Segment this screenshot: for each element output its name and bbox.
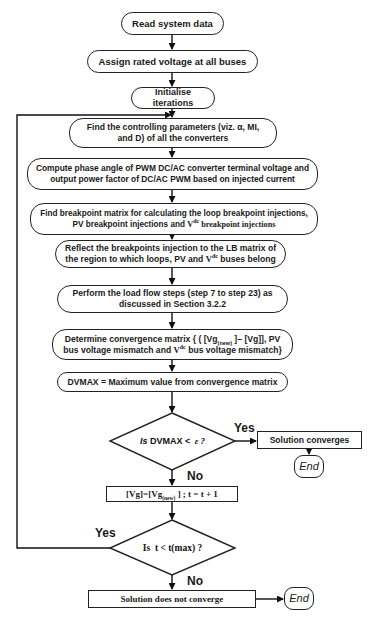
node-label-line2: the region to which loops, PV and Vdc bu… [65, 254, 275, 265]
compute-phase-angle-node: Compute phase angle of PWM DC/AC convert… [27, 158, 318, 190]
node-label-line2: and D) of all the converters [118, 133, 229, 144]
text-part: Is [140, 436, 148, 446]
assign-voltage-node: Assign rated voltage at all buses [87, 50, 258, 73]
node-label: Assign rated voltage at all buses [99, 56, 247, 67]
node-label: Initialise iterations [134, 87, 212, 109]
text-part: ] ; t = t + 1 [175, 489, 218, 499]
text-part: buses belong [218, 254, 276, 264]
initialise-iterations-node: Initialise iterations [131, 87, 215, 109]
node-label-line1: Compute phase angle of PWM DC/AC convert… [36, 163, 309, 174]
node-label-line2: PV breakpoint injections and Vdc breakpo… [73, 219, 276, 230]
node-label: DVMAX = Maximum value from convergence m… [68, 377, 278, 388]
text-part: breakpoint injections [199, 220, 275, 229]
text-part: [Vg]=[Vg [126, 489, 162, 499]
text-part: ]– [Vg]], PV [232, 334, 280, 344]
perform-load-flow-node: Perform the load flow steps (step 7 to s… [57, 285, 288, 313]
find-breakpoint-matrix-node: Find breakpoint matrix for calculating t… [30, 203, 318, 235]
solution-not-converge-node: Solution does not converge [88, 590, 256, 608]
node-label: End [289, 593, 309, 604]
find-controlling-parameters-node: Find the controlling parameters (viz. α,… [69, 118, 277, 148]
dvmax-node: DVMAX = Maximum value from convergence m… [57, 372, 288, 392]
node-label-line2: output power factor of DC/AC PWM based o… [50, 174, 295, 185]
text-part: PV breakpoint injections and [73, 220, 188, 229]
epsilon-symbol: ε ? [195, 436, 205, 446]
update-voltage-node: [Vg]=[Vg(new) ] ; t = t + 1 [106, 486, 238, 502]
text-part: bus voltage mismatch} [186, 345, 282, 355]
node-label-line1: Find breakpoint matrix for calculating t… [40, 208, 308, 219]
node-label-line1: Determine convergence matrix { ( [Vg(new… [65, 334, 280, 345]
end-node-2: End [284, 587, 314, 610]
node-label: Solution converges [270, 435, 350, 446]
text-part: DVMAX < [147, 436, 192, 446]
decision-2-yes-label: Yes [95, 526, 116, 540]
determine-convergence-node: Determine convergence matrix { ( [Vg(new… [52, 329, 293, 360]
decision-2-no-label: No [187, 574, 203, 588]
node-label: End [299, 461, 319, 472]
node-label: Solution does not converge [121, 594, 224, 605]
node-label-line2: discussed in Section 3.2.2 [119, 299, 226, 310]
new-subscript: (new) [162, 494, 175, 500]
reflect-breakpoints-node: Reflect the breakpoints injection to the… [55, 240, 286, 268]
text-part: Determine convergence matrix { ( [Vg [65, 334, 218, 344]
node-label-line1: Find the controlling parameters (viz. α,… [87, 122, 259, 133]
solution-converges-node: Solution converges [257, 431, 362, 449]
node-label-line2: bus voltage mismatch and Vdc bus voltage… [63, 345, 282, 356]
node-label: Read system data [132, 18, 213, 29]
end-node-1: End [294, 455, 324, 478]
decision-1-label: Is DVMAX < ε ? [120, 433, 225, 449]
text-part: bus voltage mismatch and [63, 345, 173, 355]
decision-2-label: Is t < t(max) ? [120, 540, 225, 556]
decision-1-no-label: No [187, 469, 203, 483]
text-part: the region to which loops, PV and [65, 254, 205, 264]
node-label-line1: Reflect the breakpoints injection to the… [65, 243, 276, 254]
node-label-line1: Perform the load flow steps (step 7 to s… [72, 288, 272, 299]
decision-1-yes-label: Yes [234, 421, 255, 435]
node-label: [Vg]=[Vg(new) ] ; t = t + 1 [126, 489, 218, 500]
vdc-symbol: Vdc breakpoint injections [187, 220, 275, 229]
read-system-data-node: Read system data [121, 12, 224, 35]
